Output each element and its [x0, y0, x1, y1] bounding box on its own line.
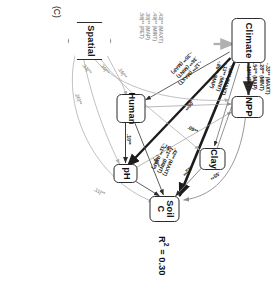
diagram-canvas: Climate NPP Clay Soil C Human pH Spatial…	[45, 0, 232, 302]
node-clay-label: Clay	[208, 149, 217, 169]
node-spatial[interactable]: Spatial	[68, 22, 112, 60]
node-human-label: Human	[126, 92, 135, 124]
label-human-ph: .10**	[125, 134, 131, 145]
panel-label: (C)	[52, 6, 62, 18]
node-ph-label: pH	[121, 167, 130, 180]
node-soilc-label: Soil C	[155, 197, 173, 221]
node-clay[interactable]: Clay	[200, 148, 226, 170]
path-diagram-figure: Climate NPP Clay Soil C Human pH Spatial…	[45, 0, 232, 302]
node-soilc[interactable]: Soil C	[150, 196, 180, 222]
label-spatial-climate-list: .42|** (MAXT) .49|** (MINT) .30|** (MAP)…	[138, 12, 163, 43]
r-squared-value: R2 = 0.30	[157, 236, 169, 275]
node-human[interactable]: Human	[117, 94, 146, 123]
node-spatial-label: Spatial	[85, 25, 94, 57]
node-ph[interactable]: pH	[114, 164, 138, 183]
edge-ph-soilc	[134, 180, 160, 196]
